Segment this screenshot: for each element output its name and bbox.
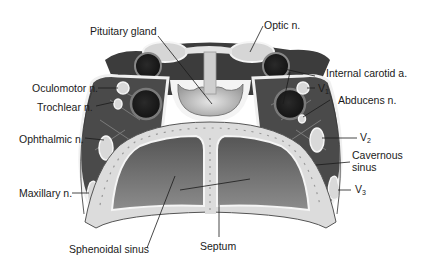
label-trochlear-nerve: Trochlear n.: [37, 101, 93, 113]
label-optic-nerve: Optic n.: [264, 19, 300, 31]
carotid-upper-right: [263, 53, 289, 79]
label-ophthalmic-nerve: Ophthalmic n.: [19, 133, 84, 145]
label-oculomotor-nerve: Oculomotor n.: [32, 82, 98, 94]
label-internal-carotid-artery: Internal carotid a.: [326, 67, 407, 79]
label-septum: Septum: [200, 240, 236, 252]
trochlear-nerve: [114, 99, 122, 109]
oculomotor-nerve: [117, 82, 129, 94]
label-v2-subscript: 2: [367, 137, 371, 144]
label-v3: V3: [355, 183, 366, 199]
label-v3-base: V: [355, 183, 362, 195]
v2-nerve: [310, 128, 324, 152]
label-v1: V1: [318, 82, 329, 98]
carotid-upper-left: [135, 53, 161, 79]
label-v1-base: V: [318, 82, 325, 94]
label-cavernous-line1: Cavernous: [352, 149, 403, 161]
label-cavernous-line2: sinus: [352, 161, 403, 173]
label-sphenoidal-sinus: Sphenoidal sinus: [69, 243, 149, 255]
label-v2: V2: [360, 131, 371, 147]
label-v3-subscript: 3: [362, 189, 366, 196]
label-cavernous-sinus: Cavernoussinus: [352, 149, 403, 173]
label-v1-subscript: 1: [325, 88, 329, 95]
pituitary-stalk: [204, 52, 216, 94]
label-pituitary-gland: Pituitary gland: [90, 25, 157, 37]
label-v2-base: V: [360, 131, 367, 143]
label-maxillary-nerve: Maxillary n.: [19, 187, 72, 199]
label-abducens-nerve: Abducens n.: [338, 94, 396, 106]
anatomy-diagram: [0, 0, 421, 263]
carotid-lower-left: [131, 89, 161, 119]
